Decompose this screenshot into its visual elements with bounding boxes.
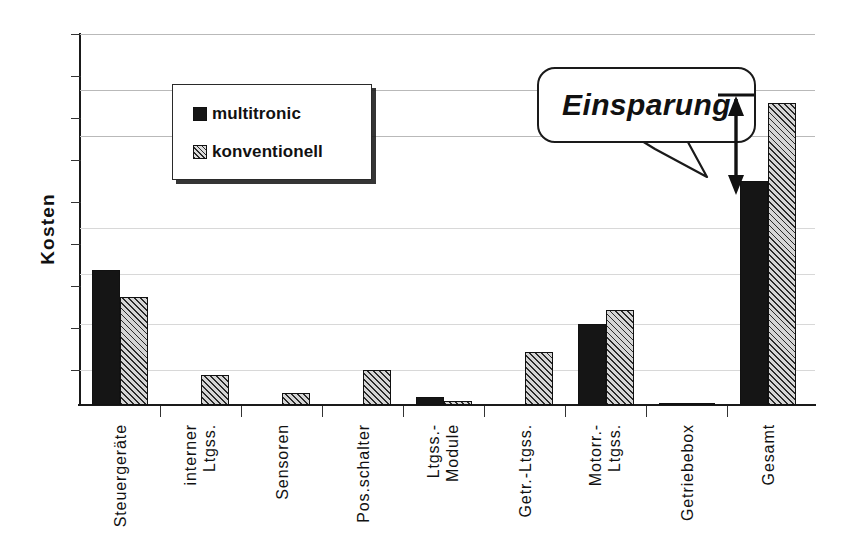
y-axis-title: Kosten bbox=[37, 159, 59, 299]
x-axis-label-5: Getr.-Ltgss. bbox=[516, 424, 535, 556]
x-axis-label-4: Ltgss.- Module bbox=[424, 424, 462, 556]
bar-konventionell-6 bbox=[606, 310, 634, 405]
bar-chart: Kosten Steuergeräteinterner Ltgss.Sensor… bbox=[0, 0, 853, 556]
bar-konventionell-7 bbox=[687, 403, 715, 406]
x-axis-label-7: Getriebebox bbox=[678, 424, 697, 556]
x-axis-label-0: Steuergeräte bbox=[111, 424, 130, 556]
double-arrow-icon bbox=[716, 92, 756, 197]
x-axis-tick bbox=[646, 406, 647, 417]
bar-multitronic-0 bbox=[92, 270, 120, 405]
x-axis-tick bbox=[727, 406, 728, 417]
bar-multitronic-4 bbox=[416, 397, 444, 405]
bar-konventionell-8 bbox=[768, 103, 796, 405]
x-axis-label-6: Motorr.- Ltgss. bbox=[586, 424, 624, 556]
x-axis-label-2: Sensoren bbox=[273, 424, 292, 556]
x-axis-tick bbox=[484, 406, 485, 417]
bar-konventionell-2 bbox=[282, 393, 310, 405]
bar-konventionell-1 bbox=[201, 375, 229, 405]
grid-line bbox=[80, 274, 815, 275]
legend-item-konventionell: konventionell bbox=[193, 133, 371, 171]
chart-legend: multitronic konventionell bbox=[172, 84, 372, 180]
hatched-square-icon bbox=[193, 145, 207, 159]
bar-konventionell-4 bbox=[444, 401, 472, 405]
legend-label: konventionell bbox=[212, 142, 323, 162]
x-axis-label-3: Pos.schalter bbox=[354, 424, 373, 556]
bar-konventionell-0 bbox=[120, 297, 148, 405]
x-axis-tick bbox=[565, 406, 566, 417]
grid-line bbox=[80, 34, 815, 35]
grid-line bbox=[80, 324, 815, 325]
bar-konventionell-5 bbox=[525, 352, 553, 405]
x-axis-label-8: Gesamt bbox=[759, 424, 778, 556]
x-axis-label-1: interner Ltgss. bbox=[181, 424, 219, 556]
grid-line bbox=[80, 370, 815, 371]
x-axis-tick bbox=[241, 406, 242, 417]
legend-item-multitronic: multitronic bbox=[193, 95, 371, 133]
bar-multitronic-7 bbox=[659, 403, 687, 406]
legend-label: multitronic bbox=[212, 104, 301, 124]
bar-multitronic-8 bbox=[740, 181, 768, 405]
callout-label: Einsparung bbox=[562, 88, 731, 122]
bar-konventionell-3 bbox=[363, 370, 391, 405]
x-axis-tick bbox=[322, 406, 323, 417]
filled-square-icon bbox=[193, 107, 207, 121]
x-axis-tick bbox=[160, 406, 161, 417]
x-axis-tick bbox=[403, 406, 404, 417]
grid-line bbox=[80, 228, 815, 229]
bar-multitronic-6 bbox=[578, 324, 606, 405]
